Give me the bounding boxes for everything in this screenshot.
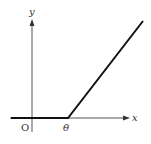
x-axis-label: x: [132, 112, 138, 123]
theta-label: θ: [63, 122, 69, 133]
plot-svg: y x O θ: [0, 0, 151, 144]
y-axis-label: y: [28, 6, 35, 17]
y-axis-arrow-icon: [30, 19, 35, 26]
x-axis-arrow-icon: [123, 116, 130, 121]
chart-canvas: y x O θ: [0, 0, 151, 144]
function-curve: [11, 21, 143, 118]
origin-label: O: [21, 122, 29, 133]
